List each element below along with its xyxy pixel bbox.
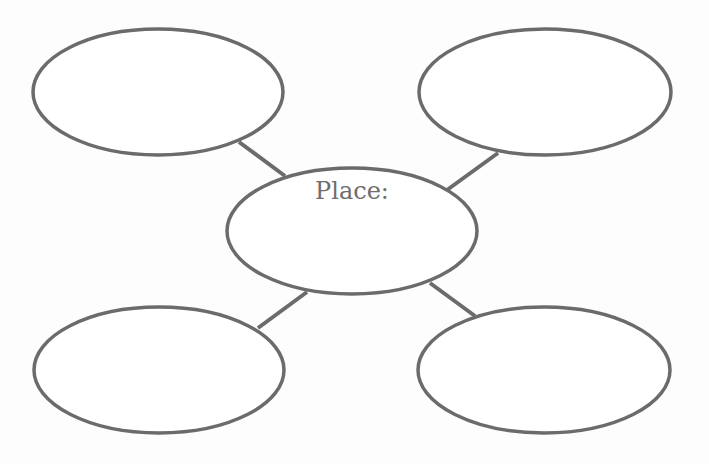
bubble-map-diagram: Place: — [0, 0, 709, 464]
bubble-top-left[interactable] — [33, 29, 283, 155]
bubbles — [33, 29, 671, 433]
connector-bottom-left — [258, 292, 307, 328]
connector-bottom-right — [430, 283, 475, 316]
connector-top-left — [239, 142, 285, 176]
bubble-bottom-right[interactable] — [418, 307, 670, 433]
bubble-top-right[interactable] — [419, 29, 671, 155]
connector-top-right — [447, 153, 498, 190]
center-label: Place: — [315, 177, 389, 205]
bubble-bottom-left[interactable] — [34, 307, 284, 433]
